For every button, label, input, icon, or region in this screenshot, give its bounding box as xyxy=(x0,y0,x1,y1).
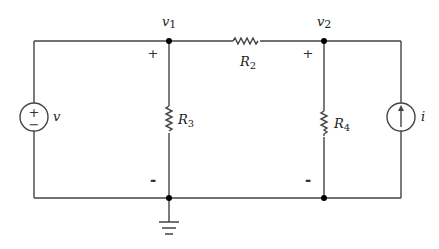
r2-resistor xyxy=(233,38,258,44)
node-v1-label: v1 xyxy=(162,14,176,31)
v1-minus-sign: - xyxy=(150,171,156,189)
r3-label: R3 xyxy=(177,112,194,129)
v2-plus-sign: + xyxy=(303,46,314,61)
node-v1-dot xyxy=(166,38,172,44)
v1-plus-sign: + xyxy=(148,46,159,61)
vsource-minus: − xyxy=(29,117,40,132)
vsource-label: v xyxy=(53,109,61,124)
r4-label: R4 xyxy=(333,116,350,133)
node-bottom-right-dot xyxy=(321,195,327,201)
r4-resistor xyxy=(321,111,327,136)
current-arrowhead-icon xyxy=(398,105,404,111)
circuit-diagram: + − v v1 v2 R2 R3 R4 i + - + - xyxy=(0,0,439,249)
v2-minus-sign: - xyxy=(305,171,311,189)
isource-label: i xyxy=(421,109,425,124)
r2-label: R2 xyxy=(239,54,256,71)
node-v2-dot xyxy=(321,38,327,44)
node-v2-label: v2 xyxy=(317,14,331,31)
ground-icon xyxy=(159,222,179,234)
node-ground-dot xyxy=(166,195,172,201)
r3-resistor xyxy=(166,106,172,131)
